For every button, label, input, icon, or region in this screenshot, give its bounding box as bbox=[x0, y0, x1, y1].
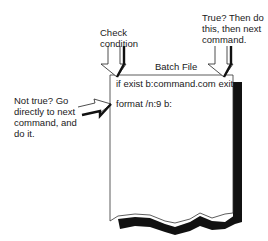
batch-file-title: Batch File bbox=[155, 61, 197, 72]
batch-line-format: format /n:9 b: bbox=[116, 98, 172, 109]
false-note-line: command, and bbox=[14, 117, 77, 128]
false-note-line: directly to next bbox=[14, 106, 77, 117]
true-branch-note: True? Then do this, then next command. bbox=[202, 12, 264, 45]
page-shadow bbox=[233, 82, 242, 222]
true-note-line: command. bbox=[202, 34, 264, 45]
false-branch-note: Not true? Go directly to next command, a… bbox=[14, 95, 77, 139]
check-note-line: condition bbox=[100, 38, 138, 49]
batch-line-if-exist: if exist b:command.com exit bbox=[116, 78, 233, 89]
check-condition-note: Check condition bbox=[100, 27, 138, 49]
false-note-line: Not true? Go bbox=[14, 95, 77, 106]
true-arrow-icon bbox=[208, 46, 233, 77]
false-note-line: do it. bbox=[14, 128, 77, 139]
check-note-line: Check bbox=[100, 27, 138, 38]
false-arrow-icon bbox=[78, 99, 111, 116]
true-note-line: True? Then do bbox=[202, 12, 264, 23]
true-note-line: this, then next bbox=[202, 23, 264, 34]
check-arrow-icon bbox=[101, 46, 126, 77]
